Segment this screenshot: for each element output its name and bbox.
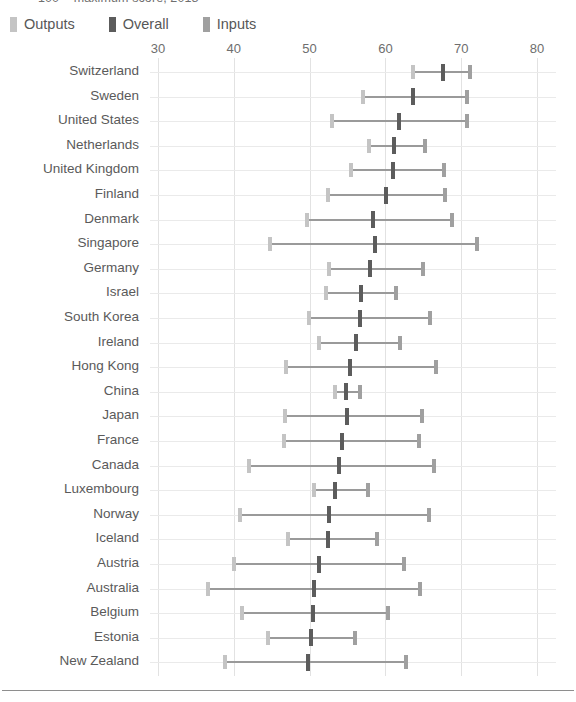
data-marker-inputs[interactable] <box>434 360 438 374</box>
data-marker-outputs[interactable] <box>312 483 316 497</box>
data-marker-outputs[interactable] <box>286 532 290 546</box>
data-marker-overall[interactable] <box>312 580 316 597</box>
data-marker-inputs[interactable] <box>442 163 446 177</box>
data-marker-overall[interactable] <box>384 187 388 204</box>
data-marker-outputs[interactable] <box>333 385 337 399</box>
category-label: United States <box>58 112 139 127</box>
data-marker-overall[interactable] <box>354 334 358 351</box>
data-marker-outputs[interactable] <box>349 163 353 177</box>
data-marker-inputs[interactable] <box>423 139 427 153</box>
data-marker-inputs[interactable] <box>443 188 447 202</box>
data-marker-overall[interactable] <box>397 113 401 130</box>
category-label: Singapore <box>77 235 139 250</box>
data-marker-overall[interactable] <box>333 482 337 499</box>
category-label: United Kingdom <box>43 161 139 176</box>
data-marker-outputs[interactable] <box>317 336 321 350</box>
data-marker-outputs[interactable] <box>206 582 210 596</box>
data-marker-inputs[interactable] <box>465 114 469 128</box>
data-marker-overall[interactable] <box>340 433 344 450</box>
data-marker-overall[interactable] <box>317 556 321 573</box>
data-marker-outputs[interactable] <box>238 508 242 522</box>
data-marker-outputs[interactable] <box>324 286 328 300</box>
gridline-horizontal <box>150 72 556 73</box>
data-marker-overall[interactable] <box>441 64 445 81</box>
data-marker-outputs[interactable] <box>284 360 288 374</box>
data-marker-outputs[interactable] <box>326 188 330 202</box>
data-marker-inputs[interactable] <box>386 606 390 620</box>
category-label: South Korea <box>64 309 139 324</box>
data-marker-overall[interactable] <box>344 383 348 400</box>
data-marker-outputs[interactable] <box>247 459 251 473</box>
data-marker-outputs[interactable] <box>232 557 236 571</box>
data-marker-inputs[interactable] <box>402 557 406 571</box>
data-marker-outputs[interactable] <box>223 655 227 669</box>
axis-tick-label: 80 <box>530 41 544 56</box>
data-marker-outputs[interactable] <box>283 409 287 423</box>
data-marker-overall[interactable] <box>311 605 315 622</box>
data-marker-outputs[interactable] <box>307 311 311 325</box>
data-marker-inputs[interactable] <box>465 90 469 104</box>
data-marker-outputs[interactable] <box>361 90 365 104</box>
data-marker-inputs[interactable] <box>404 655 408 669</box>
data-marker-overall[interactable] <box>345 408 349 425</box>
range-line <box>240 514 430 516</box>
gridline-horizontal <box>150 146 556 147</box>
data-marker-outputs[interactable] <box>305 213 309 227</box>
category-label: China <box>104 383 139 398</box>
data-marker-inputs[interactable] <box>375 532 379 546</box>
data-marker-inputs[interactable] <box>366 483 370 497</box>
range-line <box>314 489 368 491</box>
category-label: Netherlands <box>66 137 139 152</box>
data-marker-inputs[interactable] <box>432 459 436 473</box>
data-marker-outputs[interactable] <box>411 65 415 79</box>
category-label: Japan <box>102 407 139 422</box>
data-marker-outputs[interactable] <box>367 139 371 153</box>
data-marker-outputs[interactable] <box>266 631 270 645</box>
data-marker-overall[interactable] <box>411 88 415 105</box>
data-marker-inputs[interactable] <box>475 237 479 251</box>
category-label: New Zealand <box>59 653 139 668</box>
data-marker-inputs[interactable] <box>394 286 398 300</box>
data-marker-overall[interactable] <box>337 457 341 474</box>
category-label: Finland <box>95 186 139 201</box>
data-marker-inputs[interactable] <box>450 213 454 227</box>
data-marker-outputs[interactable] <box>330 114 334 128</box>
data-marker-inputs[interactable] <box>418 582 422 596</box>
data-marker-inputs[interactable] <box>420 409 424 423</box>
data-marker-outputs[interactable] <box>282 434 286 448</box>
category-label: Canada <box>92 457 139 472</box>
data-marker-overall[interactable] <box>326 531 330 548</box>
category-label-column: SwitzerlandSwedenUnited StatesNetherland… <box>0 0 139 702</box>
data-marker-outputs[interactable] <box>240 606 244 620</box>
data-marker-overall[interactable] <box>373 236 377 253</box>
data-marker-overall[interactable] <box>359 285 363 302</box>
data-marker-outputs[interactable] <box>268 237 272 251</box>
gridline-horizontal <box>150 97 556 98</box>
category-label: Denmark <box>84 211 139 226</box>
data-marker-overall[interactable] <box>309 629 313 646</box>
data-marker-inputs[interactable] <box>428 311 432 325</box>
category-label: Iceland <box>95 530 139 545</box>
data-marker-overall[interactable] <box>391 162 395 179</box>
range-line <box>351 169 444 171</box>
data-marker-overall[interactable] <box>392 137 396 154</box>
range-line <box>285 415 422 417</box>
data-marker-overall[interactable] <box>368 260 372 277</box>
data-marker-inputs[interactable] <box>358 385 362 399</box>
data-marker-outputs[interactable] <box>327 262 331 276</box>
data-marker-inputs[interactable] <box>353 631 357 645</box>
axis-tick-label: 70 <box>454 41 468 56</box>
data-marker-overall[interactable] <box>348 359 352 376</box>
range-line <box>319 342 400 344</box>
data-marker-inputs[interactable] <box>421 262 425 276</box>
category-label: Belgium <box>90 604 139 619</box>
data-marker-inputs[interactable] <box>468 65 472 79</box>
data-marker-inputs[interactable] <box>398 336 402 350</box>
data-marker-overall[interactable] <box>358 310 362 327</box>
data-marker-overall[interactable] <box>327 506 331 523</box>
data-marker-inputs[interactable] <box>427 508 431 522</box>
category-label: Austria <box>97 555 139 570</box>
data-marker-overall[interactable] <box>306 654 310 671</box>
data-marker-inputs[interactable] <box>417 434 421 448</box>
data-marker-overall[interactable] <box>371 211 375 228</box>
